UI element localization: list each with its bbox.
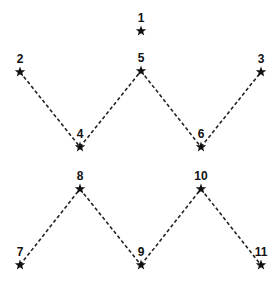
star-icon — [15, 67, 25, 77]
edge-4-5 — [80, 71, 141, 147]
node-6: 6 — [196, 127, 206, 151]
node-label: 1 — [138, 11, 145, 25]
node-label: 11 — [255, 245, 268, 259]
node-11: 11 — [255, 245, 268, 269]
node-label: 6 — [198, 127, 205, 141]
node-1: 1 — [136, 11, 146, 35]
edge-10-11 — [201, 189, 261, 265]
edge-7-8 — [20, 189, 80, 265]
connect-dots-diagram: 1234567891011 — [0, 0, 280, 287]
edge-8-9 — [80, 189, 141, 265]
edge-9-10 — [141, 189, 201, 265]
dashed-edges — [20, 71, 261, 265]
node-2: 2 — [15, 52, 25, 76]
star-icon — [136, 26, 146, 36]
node-label: 10 — [194, 169, 208, 183]
node-7: 7 — [15, 245, 25, 269]
node-label: 8 — [77, 169, 84, 183]
edge-6-3 — [201, 72, 261, 147]
node-label: 4 — [77, 127, 84, 141]
node-8: 8 — [75, 169, 85, 193]
edge-2-4 — [20, 72, 80, 147]
node-label: 3 — [258, 52, 265, 66]
node-10: 10 — [194, 169, 208, 193]
star-nodes: 1234567891011 — [15, 11, 268, 269]
edge-5-6 — [141, 71, 201, 147]
node-label: 2 — [17, 52, 24, 66]
node-5: 5 — [136, 51, 146, 75]
star-icon — [136, 66, 146, 76]
node-3: 3 — [256, 52, 266, 76]
node-label: 9 — [138, 245, 145, 259]
node-label: 5 — [138, 51, 145, 65]
node-4: 4 — [75, 127, 85, 151]
node-9: 9 — [136, 245, 146, 269]
star-icon — [75, 184, 85, 194]
node-label: 7 — [17, 245, 24, 259]
star-icon — [256, 67, 266, 77]
star-icon — [196, 184, 206, 194]
star-icon — [15, 260, 25, 270]
